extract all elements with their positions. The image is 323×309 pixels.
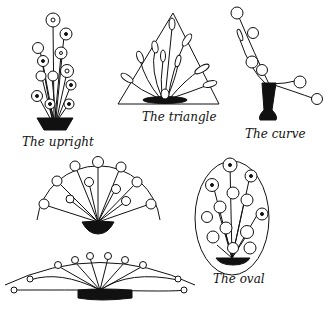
- curve-arrangement: [231, 7, 323, 120]
- label-triangle: The triangle: [142, 110, 217, 124]
- upright-arrangement: [32, 13, 77, 130]
- crescent-arrangement: [5, 253, 195, 301]
- label-oval: The oval: [213, 272, 265, 286]
- triangle-arrangement: [118, 13, 219, 104]
- fan-arrangement: [37, 157, 160, 235]
- label-curve: The curve: [245, 127, 306, 141]
- oval-arrangement: [195, 158, 269, 275]
- label-upright: The upright: [22, 135, 94, 149]
- flower-arrangement-illustrations: [0, 0, 323, 309]
